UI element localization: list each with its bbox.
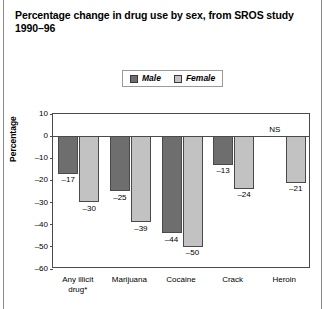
bar-female[interactable] [286, 136, 306, 183]
y-axis-tick-mark [50, 136, 53, 137]
legend-swatch-female-icon [174, 75, 182, 83]
x-axis-category-label: Cocaine [166, 275, 195, 285]
y-axis-tick-label: –10 [35, 154, 50, 162]
legend-swatch-male-icon [130, 75, 138, 83]
y-axis-tick: –40 [35, 221, 53, 229]
x-axis-category-label: Crack [222, 275, 243, 285]
y-axis-title: Percentage [9, 116, 18, 162]
legend-label-female: Female [186, 74, 215, 83]
y-axis-tick: –10 [35, 154, 53, 162]
y-axis-tick: –50 [35, 243, 53, 251]
y-axis-tick-mark [50, 224, 53, 225]
bar-male[interactable] [162, 136, 182, 233]
chart-title-line-2: 1990–96 [15, 22, 311, 35]
bar-male[interactable] [110, 136, 130, 191]
bar-female[interactable] [234, 136, 254, 189]
bar-female[interactable] [131, 136, 151, 222]
y-axis-tick-mark [50, 158, 53, 159]
y-axis-tick-mark [50, 269, 53, 270]
bar-value-label: –21 [289, 184, 302, 193]
legend-item-female: Female [174, 74, 215, 83]
y-axis-tick-label: –30 [35, 199, 50, 207]
bar-value-label: –44 [165, 235, 178, 244]
chart-page: Percentage change in drug use by sex, fr… [0, 0, 325, 309]
x-axis-category-label: Heroin [272, 275, 296, 285]
plot-area: 100–10–20–30–40–50–60 –17–30–25–39–44–50… [52, 113, 310, 268]
bar-female[interactable] [79, 136, 99, 202]
bar-value-label: –24 [237, 190, 250, 199]
bar-value-label: –30 [83, 204, 96, 213]
not-significant-label: NS [269, 125, 280, 134]
y-axis-tick-mark [50, 246, 53, 247]
bar-male[interactable] [213, 136, 233, 165]
y-axis-tick-label: –40 [35, 221, 50, 229]
y-axis-tick: –60 [35, 265, 53, 273]
x-axis-category-label: Any illicit drug* [62, 275, 93, 294]
y-axis-tick: 0 [44, 132, 53, 140]
y-axis-tick: 10 [39, 110, 53, 118]
bar-value-label: –39 [134, 224, 147, 233]
chart-legend: Male Female [122, 70, 223, 87]
chart-title: Percentage change in drug use by sex, fr… [15, 9, 311, 35]
y-axis-tick-mark [50, 180, 53, 181]
y-axis-tick-label: –50 [35, 243, 50, 251]
x-axis-category-label: Marijuana [112, 275, 147, 285]
bar-value-label: –50 [186, 248, 199, 257]
y-axis-tick: –30 [35, 199, 53, 207]
bar-male[interactable] [58, 136, 78, 174]
legend-label-male: Male [142, 74, 161, 83]
chart-title-line-1: Percentage change in drug use by sex, fr… [15, 9, 311, 22]
y-axis-tick-label: –60 [35, 265, 50, 273]
bar-female[interactable] [183, 136, 203, 247]
y-axis-tick-label: 10 [39, 110, 50, 118]
y-axis-tick-label: –20 [35, 176, 50, 184]
bar-value-label: –25 [113, 193, 126, 202]
y-axis-tick-mark [50, 202, 53, 203]
bar-value-label: –17 [62, 175, 75, 184]
legend-item-male: Male [130, 74, 161, 83]
y-axis-tick-mark [50, 114, 53, 115]
bar-value-label: –13 [216, 166, 229, 175]
y-axis-tick: –20 [35, 176, 53, 184]
